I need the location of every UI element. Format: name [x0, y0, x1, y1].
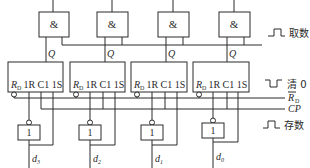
stage-4-wiring: 1 d0 — [202, 92, 238, 168]
positive-pulse-icon — [268, 29, 285, 36]
and-gate-4: & Q — [219, 0, 250, 62]
input-d0: d0 — [216, 151, 224, 163]
and-gate-2: & Q — [97, 0, 128, 62]
and-gate-3: & Q — [158, 0, 189, 62]
flip-flop-2: RD1R C1 1S — [70, 62, 125, 97]
flip-flop-1: RD1R C1 1S — [8, 62, 63, 97]
and-gate-1: & Q — [39, 0, 69, 62]
q-output-label: Q — [48, 48, 56, 59]
svg-text:Q: Q — [168, 48, 176, 59]
svg-text:1: 1 — [150, 127, 155, 138]
svg-text:1: 1 — [211, 125, 216, 136]
input-d2: d2 — [93, 153, 101, 165]
stage-1-wiring: 1 d3 — [18, 92, 53, 168]
negative-pulse-icon — [265, 80, 282, 87]
flip-flop-3: RD1R C1 1S — [131, 62, 187, 97]
svg-text:1: 1 — [88, 127, 93, 138]
svg-text:&: & — [108, 18, 117, 30]
input-d1: d1 — [155, 153, 163, 165]
svg-text:&: & — [169, 18, 178, 30]
svg-text:R: R — [287, 92, 294, 103]
cp-bus-label: CP — [288, 103, 301, 114]
register-circuit-diagram: & Q & Q & Q & Q 取数 RD1R C1 1S — [0, 0, 310, 168]
read-signal: 取数 — [268, 27, 309, 39]
stage-2-wiring: 1 d2 — [79, 92, 115, 168]
read-signal-label: 取数 — [289, 27, 309, 39]
clear-signal-label: 清 0 — [287, 78, 307, 90]
store-signal: 存数 — [263, 119, 304, 131]
store-signal-label: 存数 — [284, 119, 304, 131]
svg-text:1: 1 — [27, 127, 32, 138]
svg-text:&: & — [230, 18, 239, 30]
clear-signal: 清 0 — [265, 78, 307, 90]
input-d3: d3 — [32, 153, 40, 165]
flip-flop-4: RD1R C1 1S — [193, 62, 249, 97]
svg-text:Q: Q — [107, 48, 115, 59]
svg-text:Q: Q — [229, 48, 237, 59]
stage-3-wiring: 1 d1 — [141, 92, 177, 168]
positive-pulse-icon — [263, 121, 280, 128]
and-gate-label: & — [50, 18, 59, 30]
